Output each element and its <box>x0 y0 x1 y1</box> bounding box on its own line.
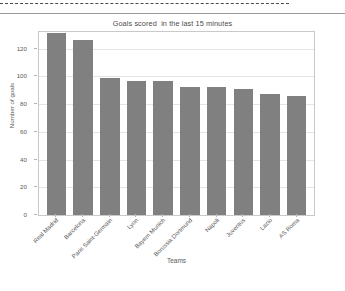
y-tick-label: 40 <box>0 155 27 162</box>
y-tick-mark <box>34 103 37 104</box>
y-tick-label: 20 <box>0 183 27 190</box>
y-tick-label: 0 <box>0 211 27 218</box>
x-axis-ticks: Real MadridBarcelonaParis Saint-GermainL… <box>38 217 315 257</box>
bar-slot <box>150 32 177 215</box>
bar-slot <box>43 32 70 215</box>
y-tick-label: 60 <box>0 127 27 134</box>
bar <box>127 81 146 215</box>
bar-series <box>39 32 314 215</box>
bar-slot <box>177 32 204 215</box>
bar <box>260 94 279 215</box>
y-tick-mark <box>34 48 37 49</box>
chart-figure: Goals scored in the last 15 minutes Numb… <box>0 14 345 291</box>
bar-slot <box>123 32 150 215</box>
bar-slot <box>283 32 310 215</box>
x-tick-mark <box>135 214 136 217</box>
bar <box>234 89 253 215</box>
bar-slot <box>96 32 123 215</box>
bar <box>153 81 172 215</box>
y-tick-label: 120 <box>0 44 27 51</box>
bar-slot <box>257 32 284 215</box>
y-tick-mark <box>34 131 37 132</box>
bar-slot <box>230 32 257 215</box>
bar <box>100 78 119 215</box>
y-tick-mark <box>34 214 37 215</box>
plot-area <box>38 31 315 216</box>
bar <box>47 33 66 215</box>
y-tick-mark <box>34 186 37 187</box>
bar <box>207 87 226 215</box>
x-tick-label: AS Roma <box>211 217 300 291</box>
selection-marker <box>0 3 289 4</box>
y-tick-label: 80 <box>0 100 27 107</box>
bar <box>287 96 306 215</box>
y-tick-label: 100 <box>0 72 27 79</box>
bar <box>73 40 92 215</box>
bar <box>180 87 199 215</box>
y-tick-mark <box>34 75 37 76</box>
bar-slot <box>203 32 230 215</box>
bar-slot <box>70 32 97 215</box>
y-tick-mark <box>34 159 37 160</box>
x-axis-label: Teams <box>38 257 315 264</box>
chart-title: Goals scored in the last 15 minutes <box>0 19 345 28</box>
